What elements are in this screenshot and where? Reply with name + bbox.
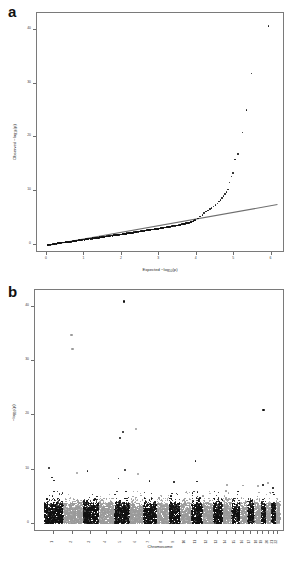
manhattan-data-point (69, 500, 70, 501)
manhattan-data-point (113, 506, 114, 507)
manhattan-data-point (206, 512, 207, 513)
chromosome-tick-label: 14 (225, 540, 228, 544)
qq-data-point (242, 132, 244, 134)
qq-data-point (227, 189, 229, 191)
manhattan-data-point (133, 491, 134, 492)
manhattan-data-point (270, 492, 271, 493)
manhattan-data-point (216, 509, 217, 510)
panel-a-y-tick (33, 190, 36, 191)
manhattan-data-point (78, 519, 79, 520)
manhattan-data-point (111, 501, 112, 502)
manhattan-data-point (100, 520, 101, 521)
panel-b-x-tick (196, 531, 197, 534)
manhattan-data-point (249, 512, 250, 513)
manhattan-data-point (107, 519, 108, 520)
manhattan-data-point (89, 518, 90, 519)
manhattan-data-point (269, 498, 270, 499)
manhattan-data-point (279, 522, 280, 523)
chromosome-tick-label: 15 (233, 540, 236, 544)
manhattan-data-point (53, 519, 54, 520)
manhattan-data-point (135, 497, 136, 498)
manhattan-data-point (108, 509, 109, 510)
manhattan-data-point (134, 502, 135, 503)
manhattan-data-point (249, 517, 250, 518)
manhattan-data-point (65, 504, 66, 505)
manhattan-data-point (269, 523, 270, 524)
manhattan-data-point (157, 509, 158, 510)
manhattan-data-point (197, 518, 198, 519)
manhattan-data-point (119, 507, 120, 508)
manhattan-data-point (171, 515, 172, 516)
manhattan-data-point (75, 503, 76, 504)
manhattan-data-point (272, 492, 273, 493)
qq-data-point (231, 176, 233, 178)
panel-a-data-area (37, 13, 283, 251)
manhattan-data-point (143, 514, 144, 515)
manhattan-data-point (100, 502, 101, 503)
manhattan-peak-point (70, 334, 73, 337)
manhattan-data-point (238, 521, 239, 522)
manhattan-data-point (214, 503, 215, 504)
panel-b-y-tick-label: 10 (18, 467, 29, 470)
qq-data-point (213, 206, 215, 208)
manhattan-peak-point (262, 484, 264, 486)
manhattan-data-point (230, 522, 231, 523)
manhattan-data-point (210, 493, 211, 494)
manhattan-data-point (117, 506, 118, 507)
manhattan-data-point (51, 507, 52, 508)
manhattan-data-point (194, 504, 195, 505)
manhattan-data-point (137, 500, 138, 501)
panel-a-y-tick (33, 29, 36, 30)
manhattan-data-point (269, 502, 270, 503)
panel-a-x-tick (271, 252, 272, 255)
chromosome-tick-label: 13 (215, 540, 218, 544)
qq-data-point (226, 191, 228, 193)
manhattan-data-point (219, 522, 220, 523)
manhattan-data-point (273, 494, 274, 495)
manhattan-data-point (145, 500, 146, 501)
manhattan-data-point (195, 522, 196, 523)
manhattan-data-point (174, 510, 175, 511)
panel-b-x-tick (273, 531, 274, 534)
manhattan-data-point (268, 517, 269, 518)
manhattan-data-point (188, 503, 189, 504)
manhattan-data-point (197, 520, 198, 521)
manhattan-data-point (135, 499, 136, 500)
manhattan-data-point (225, 490, 226, 491)
chromosome-tick-label: 20 (266, 540, 269, 544)
manhattan-data-point (63, 518, 64, 519)
panel-a-y-tick (33, 136, 36, 137)
manhattan-data-point (108, 506, 109, 507)
manhattan-data-point (110, 511, 111, 512)
manhattan-data-point (64, 511, 65, 512)
manhattan-data-point (147, 523, 148, 524)
manhattan-data-point (249, 502, 250, 503)
manhattan-data-point (154, 523, 155, 524)
panel-a-x-axis-title-suffix: (p) (172, 267, 177, 272)
qq-data-point (229, 182, 231, 184)
manhattan-data-point (268, 504, 269, 505)
manhattan-data-point (150, 516, 151, 517)
qq-data-point (232, 172, 234, 174)
manhattan-data-point (66, 508, 67, 509)
manhattan-data-point (85, 516, 86, 517)
panel-a-x-tick-label: 6 (270, 257, 272, 260)
manhattan-peak-point (135, 428, 137, 430)
manhattan-data-point (251, 500, 252, 501)
panel-b-x-tick (257, 531, 258, 534)
panel-b-x-tick (72, 531, 73, 534)
manhattan-data-point (226, 519, 227, 520)
manhattan-data-point (218, 499, 219, 500)
manhattan-data-point (73, 512, 74, 513)
manhattan-data-point (218, 507, 219, 508)
manhattan-data-point (124, 523, 125, 524)
manhattan-data-point (277, 514, 278, 515)
manhattan-data-point (195, 523, 196, 524)
manhattan-data-point (266, 494, 267, 495)
qq-data-point (205, 211, 207, 213)
manhattan-data-point (52, 495, 53, 496)
manhattan-data-point (221, 515, 222, 516)
manhattan-data-point (224, 513, 225, 514)
manhattan-peak-point (149, 480, 151, 482)
manhattan-data-point (75, 518, 76, 519)
